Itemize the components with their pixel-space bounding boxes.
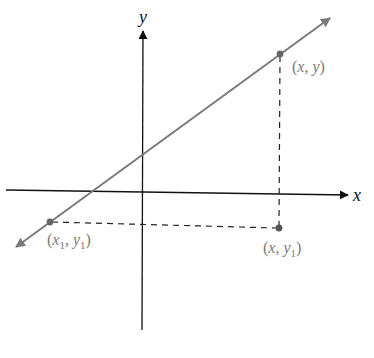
x-axis-label: x (353, 186, 361, 204)
label-x-y1: (x, y1) (263, 240, 301, 259)
point-dot-x-y1 (276, 225, 283, 232)
y-axis-label: y (139, 8, 147, 26)
label-x1-y1: (x1, y1) (47, 232, 91, 251)
label-var-y: y (312, 58, 319, 75)
point-dot-x-y (277, 51, 284, 58)
label-sep: , (65, 231, 73, 248)
coordinate-diagram (0, 0, 374, 358)
dashed-vertical-line (279, 56, 280, 226)
x-axis (6, 190, 348, 195)
y-axis (142, 31, 143, 330)
close-paren: ) (296, 239, 301, 256)
label-var-y: y (283, 239, 290, 256)
dashed-horizontal-line (52, 222, 277, 228)
label-x-y: (x, y) (292, 59, 325, 75)
close-paren: ) (86, 231, 91, 248)
label-var-y: y (73, 231, 80, 248)
point-dot-x1-y1 (47, 219, 54, 226)
close-paren: ) (320, 58, 325, 75)
